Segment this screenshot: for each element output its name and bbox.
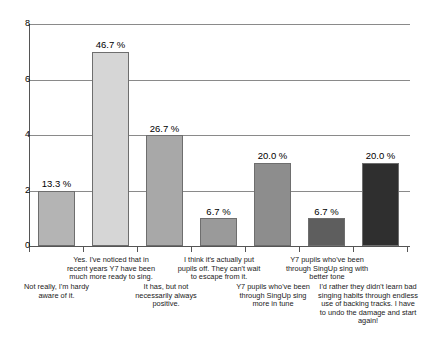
xtick-3 bbox=[191, 247, 192, 252]
xtick-0 bbox=[29, 247, 30, 252]
bar-6 bbox=[308, 218, 345, 246]
gridline-6 bbox=[29, 80, 410, 81]
bar-chart: 8 6 4 2 0 13.3 % 46.7 % 26.7 % 6.7 % 20.… bbox=[0, 0, 425, 346]
gridline-2 bbox=[29, 191, 410, 192]
ytick-label-8: 8 bbox=[8, 19, 30, 28]
xtick-5 bbox=[299, 247, 300, 252]
bar-value-1: 13.3 % bbox=[28, 179, 85, 189]
category-label-6: Y7 pupils who've been through SingUp sin… bbox=[284, 256, 370, 282]
gridline-4 bbox=[29, 135, 410, 136]
bar-1 bbox=[38, 191, 75, 247]
bar-2 bbox=[92, 52, 129, 247]
bar-value-2: 46.7 % bbox=[82, 40, 139, 50]
ytick-label-2: 2 bbox=[8, 186, 30, 195]
gridline-8 bbox=[29, 24, 410, 25]
xtick-1 bbox=[83, 247, 84, 252]
category-label-4: I think it's actually put pupils off. Th… bbox=[176, 256, 262, 282]
xtick-7 bbox=[407, 247, 408, 252]
bar-3 bbox=[146, 135, 183, 246]
xtick-2 bbox=[137, 247, 138, 252]
category-label-7: I'd rather they didn't learn bad singing… bbox=[318, 283, 418, 326]
bar-4 bbox=[200, 218, 237, 246]
ytick-label-0: 0 bbox=[8, 241, 30, 250]
category-label-2: Yes. I've noticed that in recent years Y… bbox=[66, 256, 156, 282]
bar-value-6: 6.7 % bbox=[298, 207, 355, 217]
ytick-label-6: 6 bbox=[8, 75, 30, 84]
category-label-1: Not really, I'm hardy aware of it. bbox=[22, 283, 91, 300]
ytick-label-4: 4 bbox=[8, 130, 30, 139]
bar-value-7: 20.0 % bbox=[352, 151, 409, 161]
category-label-3: It has, but not necessarily always posit… bbox=[128, 283, 204, 309]
category-label-5: Y7 pupils who've been through SingUp sin… bbox=[234, 283, 312, 309]
bar-7 bbox=[362, 163, 399, 246]
bar-5 bbox=[254, 163, 291, 246]
xtick-4 bbox=[245, 247, 246, 252]
bar-value-3: 26.7 % bbox=[136, 124, 193, 134]
bar-value-5: 20.0 % bbox=[244, 151, 301, 161]
bar-value-4: 6.7 % bbox=[190, 207, 247, 217]
xtick-6 bbox=[353, 247, 354, 252]
